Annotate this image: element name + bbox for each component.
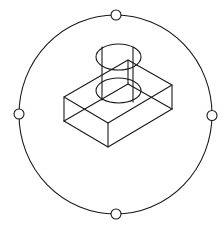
orbit-viewport[interactable]: [0, 0, 224, 230]
box-bottom-front-edges: [64, 109, 172, 147]
orbit-ring[interactable]: [19, 15, 212, 214]
wireframe-model: [64, 44, 172, 147]
orbit-handle-bottom[interactable]: [111, 209, 121, 219]
orbit-handle-left[interactable]: [14, 109, 24, 119]
orbit-handle-right[interactable]: [207, 111, 217, 121]
viewport-canvas[interactable]: [0, 0, 224, 230]
cylinder-bottom-ellipse: [96, 78, 141, 103]
orbit-handle-top[interactable]: [111, 10, 121, 20]
